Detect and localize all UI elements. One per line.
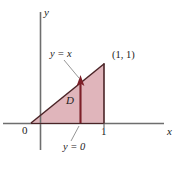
origin-label: 0 <box>22 125 28 136</box>
figure-canvas <box>0 0 189 171</box>
annotation-upper-boundary: y = x <box>50 49 72 60</box>
leader-line-y-equals-x <box>64 60 79 78</box>
annotation-lower-boundary: y = 0 <box>63 142 85 153</box>
x-axis-label: x <box>167 126 172 137</box>
leader-line-y-equals-zero <box>71 126 79 141</box>
figure-region-d: y x 0 1 y = x (1, 1) y = 0 D <box>0 0 189 171</box>
x-tick-label-one: 1 <box>101 126 107 137</box>
y-axis-label: y <box>44 7 49 18</box>
annotation-corner-point: (1, 1) <box>112 50 135 61</box>
region-label-d: D <box>66 95 74 106</box>
